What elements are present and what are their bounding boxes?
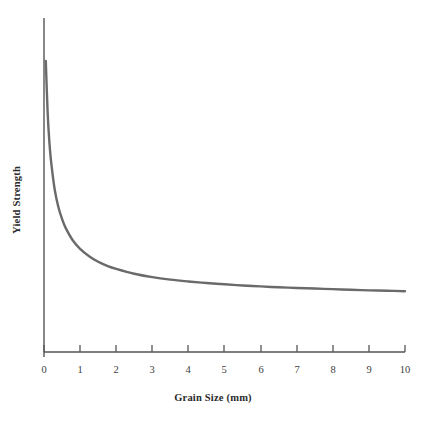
- x-tick-label: 8: [321, 364, 345, 376]
- plot-area: [0, 0, 426, 422]
- x-tick-label: 10: [393, 364, 417, 376]
- x-tick-label: 3: [140, 364, 164, 376]
- x-tick-label: 4: [176, 364, 200, 376]
- x-axis-ticks: [44, 345, 405, 352]
- y-axis-title-wrapper: Yield Strength: [4, 130, 28, 270]
- x-tick-label: 6: [249, 364, 273, 376]
- x-tick-label: 0: [32, 364, 56, 376]
- x-axis-title: Grain Size (mm): [0, 392, 426, 403]
- chart-figure: 0 1 2 3 4 5 6 7 8 9 10 Grain Size (mm) Y…: [0, 0, 426, 422]
- x-tick-label: 7: [285, 364, 309, 376]
- x-tick-label: 5: [212, 364, 236, 376]
- x-tick-label: 9: [357, 364, 381, 376]
- x-tick-label: 2: [104, 364, 128, 376]
- data-series-curve: [46, 61, 405, 291]
- x-tick-label: 1: [68, 364, 92, 376]
- y-axis-title: Yield Strength: [11, 166, 22, 234]
